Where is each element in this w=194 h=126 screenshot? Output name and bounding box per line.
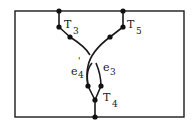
svg-text:4: 4 (78, 70, 84, 80)
node-e3-end (98, 83, 103, 88)
label-e4prime: e ' 4 (71, 56, 84, 80)
svg-text:5: 5 (136, 26, 142, 36)
svg-text:T: T (103, 91, 111, 104)
diagram-canvas: T 3 T 5 e ' 4 e 3 T 4 (0, 0, 194, 126)
node-t5 (120, 24, 125, 29)
node-e4prime-end (85, 83, 90, 88)
svg-text:e: e (71, 65, 78, 78)
node-top-left (56, 8, 61, 13)
edge-left-curve (70, 37, 90, 55)
svg-text:3: 3 (73, 26, 79, 36)
node-t3-lower (67, 34, 72, 39)
edge-e3 (96, 63, 101, 86)
svg-text:e: e (103, 61, 110, 74)
node-bottom (92, 114, 97, 119)
svg-text:': ' (78, 56, 80, 66)
label-t5: T 5 (127, 18, 142, 36)
boundary-rectangle (15, 11, 184, 117)
node-t4 (92, 97, 97, 102)
svg-text:T: T (64, 18, 72, 31)
svg-text:4: 4 (112, 99, 118, 109)
node-top-right (120, 8, 125, 13)
svg-text:3: 3 (110, 67, 116, 77)
node-t5-lower (107, 34, 112, 39)
svg-text:T: T (127, 18, 135, 31)
node-t3 (56, 24, 61, 29)
label-t4: T 4 (103, 91, 118, 109)
label-e3: e 3 (103, 61, 116, 77)
